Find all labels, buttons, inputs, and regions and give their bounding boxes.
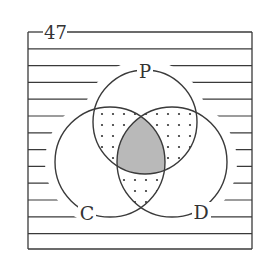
set-p-label: P <box>139 61 151 82</box>
venn-diagram: 47 P C D <box>0 0 268 269</box>
set-d-label: D <box>193 201 208 223</box>
problem-number: 47 <box>44 22 67 43</box>
set-c-label: C <box>80 202 95 224</box>
